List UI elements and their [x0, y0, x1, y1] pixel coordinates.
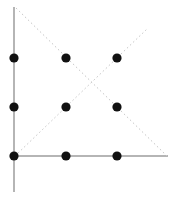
- data-point-middle-center: [61, 102, 70, 111]
- data-point-bottom-left: [9, 151, 18, 160]
- data-point-top-left: [9, 53, 18, 62]
- points-layer: [9, 53, 121, 160]
- data-point-bottom-center: [61, 151, 70, 160]
- line-diagonal-ascending: [15, 29, 147, 156]
- diagram-svg: [0, 0, 178, 201]
- data-point-middle-right: [112, 102, 121, 111]
- data-point-middle-left: [9, 102, 18, 111]
- figure-canvas: [0, 0, 178, 201]
- data-point-top-right: [112, 53, 121, 62]
- lines-layer: [10, 7, 168, 192]
- data-point-top-center: [61, 53, 70, 62]
- data-point-bottom-right: [112, 151, 121, 160]
